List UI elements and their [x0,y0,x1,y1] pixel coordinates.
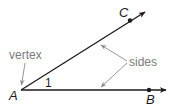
vertex-pointer-arrow [22,63,26,85]
angle-number: 1 [45,76,52,90]
angle-diagram: A B C 1 vertex sides [0,0,179,112]
point-c [128,18,132,22]
label-c: C [119,5,129,20]
sides-pointer-arrow-lower [101,63,127,87]
sides-annotation: sides [129,55,157,69]
vertex-annotation: vertex [9,48,42,62]
sides-pointer-arrow-upper [101,45,127,61]
label-b: B [146,92,155,107]
label-a: A [8,88,18,103]
